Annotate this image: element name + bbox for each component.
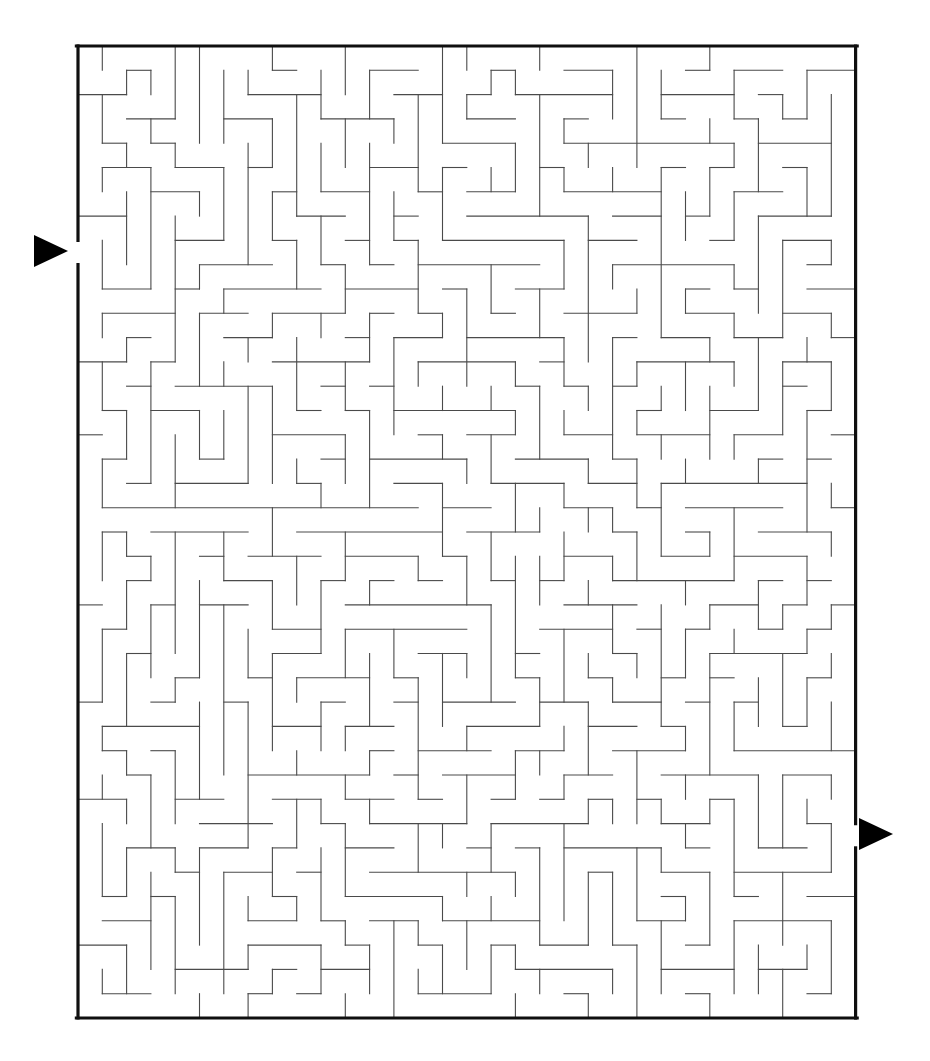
maze-page: Maze <box>0 0 930 1061</box>
maze-background <box>0 0 930 1061</box>
maze-canvas <box>0 0 930 1061</box>
maze-figure <box>0 0 930 1061</box>
